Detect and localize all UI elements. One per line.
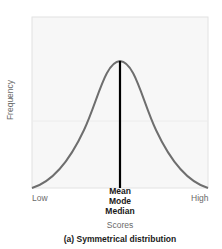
mean-label: Mean: [95, 186, 145, 196]
y-axis-label: Frequency: [3, 60, 17, 140]
symmetrical-distribution-chart: Frequency Low High Mean Mode Median Scor…: [0, 0, 222, 249]
x-tick-low: Low: [32, 193, 48, 203]
y-axis-label-text: Frequency: [5, 80, 15, 120]
chart-caption: (a) Symmetrical distribution: [0, 234, 222, 244]
central-tendency-labels: Mean Mode Median: [95, 186, 145, 216]
mode-label: Mode: [95, 196, 145, 206]
x-tick-high: High: [191, 193, 208, 203]
median-label: Median: [95, 206, 145, 216]
x-axis-label: Scores: [95, 220, 145, 230]
